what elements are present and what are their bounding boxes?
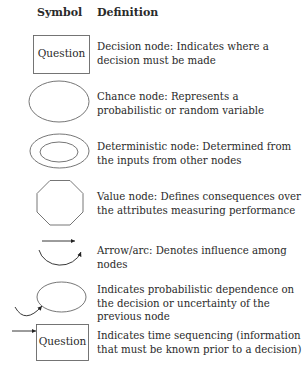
arrow-arc-icon bbox=[39, 241, 81, 265]
definition-arrow-arc: Arrow/arc: Denotes influence among nodes bbox=[97, 244, 302, 271]
definition-time-sequencing: Indicates time sequencing (information t… bbox=[97, 329, 302, 356]
definition-probabilistic-dependence: Indicates probabilistic dependence on th… bbox=[97, 283, 302, 324]
definition-deterministic-node: Deterministic node: Determined from the … bbox=[97, 140, 302, 167]
deterministic-node-icon bbox=[30, 134, 89, 168]
time-sequencing-label: Question bbox=[36, 335, 89, 347]
definition-value-node: Value node: Defines consequences over th… bbox=[97, 190, 302, 217]
value-node-icon bbox=[37, 181, 83, 226]
chance-node-icon bbox=[29, 81, 89, 122]
probabilistic-dependence-icon bbox=[15, 282, 86, 316]
definition-decision-node: Decision node: Indicates where a decisio… bbox=[97, 40, 302, 67]
definition-chance-node: Chance node: Represents a probabilistic … bbox=[97, 90, 302, 117]
decision-node-label: Question bbox=[33, 47, 90, 59]
